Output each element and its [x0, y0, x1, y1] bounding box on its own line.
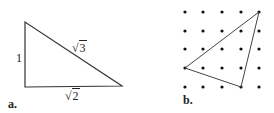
base-radicand: 2 — [72, 88, 80, 103]
hypotenuse-radicand: 3 — [79, 40, 87, 55]
hypotenuse-label: √3 — [72, 42, 87, 54]
radical-symbol: √ — [72, 41, 79, 55]
figure-b-label: b. — [183, 93, 193, 108]
figure-a-label: a. — [8, 97, 17, 112]
radical-symbol: √ — [65, 89, 72, 103]
dot-grid — [183, 10, 260, 88]
base-label: √2 — [65, 90, 80, 102]
side-label-vertical: 1 — [16, 52, 22, 64]
diagram-canvas — [0, 0, 274, 113]
